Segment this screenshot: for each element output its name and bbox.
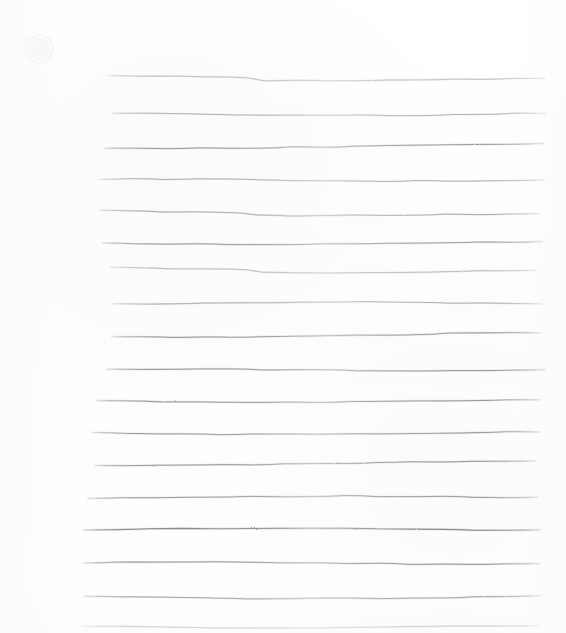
ruled-lines-svg [0,0,566,633]
ruled-line [95,461,535,466]
scanned-page [0,0,566,633]
ruled-lines-layer [0,0,566,633]
ruled-line-halo [110,267,536,273]
